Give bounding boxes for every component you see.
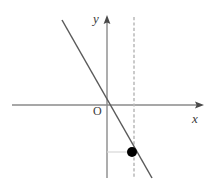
x-axis-label: x bbox=[192, 112, 198, 125]
coordinate-plane-svg bbox=[0, 0, 212, 189]
origin-label: O bbox=[93, 105, 102, 117]
figure-root: y x O bbox=[0, 0, 212, 189]
y-axis-label: y bbox=[93, 12, 99, 25]
intersection-point bbox=[127, 147, 137, 157]
